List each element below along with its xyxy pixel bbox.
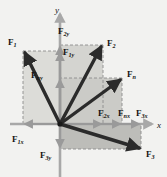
force-vector-diagram: y x F1 F2 Fn F3 F2y F1y Fny F1x F3y F2x … [0,0,167,177]
origin-point [57,121,62,126]
y-axis-label: y [54,5,59,15]
diagram-canvas: y x F1 F2 Fn F3 F2y F1y Fny F1x F3y F2x … [0,0,167,177]
x-axis-label: x [156,120,161,130]
